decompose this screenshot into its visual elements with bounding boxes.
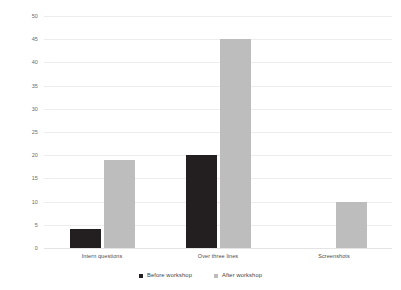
legend-label: After workshop <box>222 272 262 279</box>
bar-group <box>44 16 160 248</box>
bar-group <box>160 16 276 248</box>
y-axis-tick-label: 30 <box>8 106 38 112</box>
y-axis: 05101520253035404550 <box>4 16 38 248</box>
bar <box>186 155 217 248</box>
y-axis-tick-label: 35 <box>8 83 38 89</box>
y-axis-tick-label: 0 <box>8 245 38 251</box>
legend-label: Before workshop <box>147 272 192 279</box>
y-axis-tick-label: 45 <box>8 36 38 42</box>
plot-area <box>44 16 392 248</box>
y-axis-tick-label: 10 <box>8 199 38 205</box>
bar-group <box>276 16 392 248</box>
y-axis-tick-label: 5 <box>8 222 38 228</box>
bar <box>220 39 251 248</box>
legend-item[interactable]: After workshop <box>214 272 262 279</box>
x-axis-category-label: Intern questions <box>44 252 160 260</box>
chart-legend: Before workshopAfter workshop <box>0 272 401 279</box>
legend-swatch-before-icon <box>139 274 143 278</box>
gridline <box>44 248 392 249</box>
y-axis-tick-label: 20 <box>8 152 38 158</box>
bar <box>104 160 135 248</box>
legend-item[interactable]: Before workshop <box>139 272 192 279</box>
x-axis: Intern questionsOver three linesScreensh… <box>44 252 392 264</box>
x-axis-category-label: Screenshots <box>276 252 392 260</box>
y-axis-tick-label: 40 <box>8 59 38 65</box>
bar <box>70 229 101 248</box>
bar <box>336 202 367 248</box>
y-axis-tick-label: 25 <box>8 129 38 135</box>
y-axis-tick-label: 15 <box>8 175 38 181</box>
y-axis-tick-label: 50 <box>8 13 38 19</box>
bar-chart: 05101520253035404550 Intern questionsOve… <box>0 0 401 290</box>
legend-swatch-after-icon <box>214 274 218 278</box>
x-axis-category-label: Over three lines <box>160 252 276 260</box>
